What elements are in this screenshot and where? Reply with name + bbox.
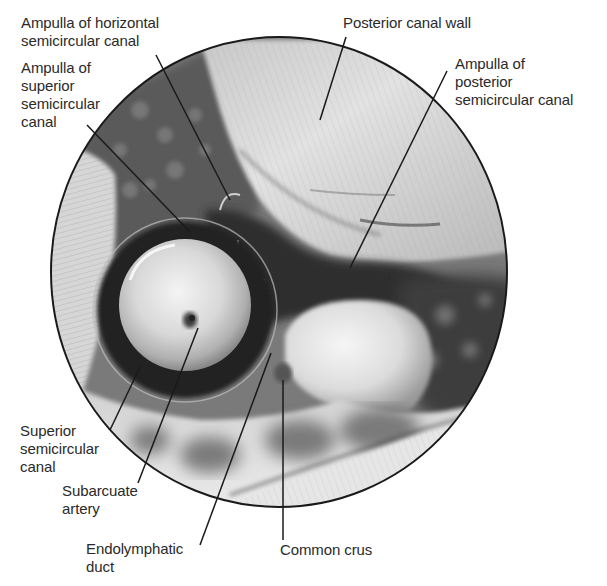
label-ampulla-horizontal: Ampulla of horizontal semicircular canal bbox=[21, 14, 159, 50]
label-line: Superior bbox=[20, 422, 99, 440]
label-line: Ampulla of bbox=[455, 55, 573, 73]
label-line: Common crus bbox=[280, 541, 372, 559]
label-superior-semicircular-canal: Superior semicircular canal bbox=[20, 422, 99, 476]
label-endolymphatic-duct: Endolymphatic duct bbox=[86, 540, 183, 576]
label-line: semicircular canal bbox=[21, 32, 159, 50]
label-line: Posterior canal wall bbox=[343, 14, 471, 32]
label-line: Ampulla of bbox=[21, 59, 100, 77]
label-line: semicircular canal bbox=[455, 91, 573, 109]
label-line: artery bbox=[62, 500, 138, 518]
label-line: Subarcuate bbox=[62, 482, 138, 500]
label-line: duct bbox=[86, 558, 183, 576]
label-posterior-canal-wall: Posterior canal wall bbox=[343, 14, 471, 32]
label-line: semicircular bbox=[21, 95, 100, 113]
label-ampulla-posterior: Ampulla of posterior semicircular canal bbox=[455, 55, 573, 109]
label-common-crus: Common crus bbox=[280, 541, 372, 559]
label-line: canal bbox=[21, 113, 100, 131]
view-contents bbox=[40, 30, 520, 520]
label-line: posterior bbox=[455, 73, 573, 91]
anatomy-figure: Ampulla of horizontal semicircular canal… bbox=[0, 0, 607, 586]
label-line: semicircular bbox=[20, 440, 99, 458]
label-line: Ampulla of horizontal bbox=[21, 14, 159, 32]
label-subarcuate-artery: Subarcuate artery bbox=[62, 482, 138, 518]
label-line: canal bbox=[20, 458, 99, 476]
label-line: superior bbox=[21, 77, 100, 95]
label-ampulla-superior: Ampulla of superior semicircular canal bbox=[21, 59, 100, 131]
label-line: Endolymphatic bbox=[86, 540, 183, 558]
